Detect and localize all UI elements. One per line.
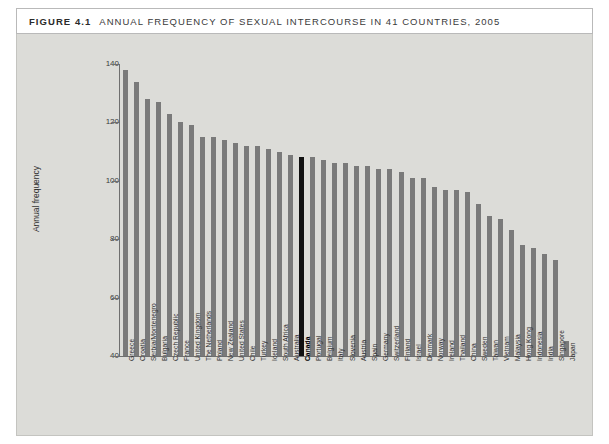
x-axis-label: Finland — [404, 339, 411, 361]
figure-number: FIGURE 4.1 — [29, 16, 91, 27]
x-axis-label: Greece — [128, 339, 135, 361]
x-axis-label: Switzerland — [393, 326, 400, 361]
bar — [288, 155, 293, 356]
bar — [421, 178, 426, 356]
y-axis-tick-mark — [112, 64, 119, 65]
x-axis-label: Australia — [293, 334, 300, 361]
x-axis-label: Ireland — [448, 340, 455, 361]
figure-header: FIGURE 4.1ANNUAL FREQUENCY OF SEXUAL INT… — [16, 8, 593, 34]
y-axis-tick: 80 — [57, 239, 119, 240]
x-axis-label: Bulgaria — [161, 336, 168, 361]
x-axis-label: South Africa — [282, 324, 289, 361]
x-axis-label: Singapore — [558, 330, 565, 361]
x-axis-label: Indonesia — [536, 332, 543, 362]
x-axis-label: Denmark — [426, 334, 433, 361]
bar — [454, 190, 459, 356]
x-axis-label: Sweden — [481, 337, 488, 361]
x-axis-label: Croatia — [139, 339, 146, 361]
x-axis-label: Norway — [437, 338, 444, 361]
bar — [365, 166, 370, 356]
bar — [321, 160, 326, 356]
bar — [465, 192, 470, 356]
x-axis-label: Canada — [304, 337, 311, 361]
x-axis-label: New Zealand — [227, 321, 234, 361]
x-axis-label: Vietnam — [503, 336, 510, 361]
figure-container: FIGURE 4.1ANNUAL FREQUENCY OF SEXUAL INT… — [16, 8, 593, 436]
x-axis-label: Malaysia — [514, 334, 521, 361]
x-axis-label: Japan — [569, 343, 576, 361]
x-axis-label: United States — [238, 320, 245, 361]
y-axis-tick: 100 — [57, 181, 119, 182]
bar — [123, 70, 128, 356]
bar — [487, 216, 492, 356]
figure-header-text: FIGURE 4.1ANNUAL FREQUENCY OF SEXUAL INT… — [29, 16, 500, 27]
x-axis-label: Taiwan — [492, 340, 499, 361]
y-axis-tick: 120 — [57, 122, 119, 123]
x-axis-label: United Kingdom — [194, 313, 201, 361]
bar — [354, 166, 359, 356]
x-axis-label: Germany — [382, 333, 389, 361]
bar — [255, 146, 260, 356]
x-axis-label: Slovenia — [349, 335, 356, 361]
bar — [332, 163, 337, 356]
y-axis-line — [119, 64, 120, 357]
x-axis-label: Hong Kong — [525, 327, 532, 361]
x-axis-label: The Netherlands — [205, 311, 212, 361]
y-axis-tick: 60 — [57, 298, 119, 299]
bar — [443, 190, 448, 356]
x-axis-label: France — [183, 340, 190, 361]
bar — [376, 169, 381, 356]
bar — [498, 219, 503, 356]
y-axis-tick-mark — [112, 356, 119, 357]
bar — [343, 163, 348, 356]
x-axis-label: Turkey — [260, 340, 267, 361]
plot-area: 406080100120140 Annual frequency GreeceC… — [17, 34, 594, 436]
x-axis-label: Spain — [371, 344, 378, 361]
x-axis-label: Austria — [360, 340, 367, 361]
x-axis-label: Chile — [249, 345, 256, 361]
bar — [299, 157, 304, 356]
y-axis-tick-mark — [112, 181, 119, 182]
x-axis-label: Czech Republic — [172, 313, 179, 361]
y-axis-tick: 40 — [57, 356, 119, 357]
x-axis-label: Portugal — [315, 336, 322, 361]
chart-panel: 406080100120140 Annual frequency GreeceC… — [16, 34, 593, 436]
bar — [266, 149, 271, 356]
bar — [387, 169, 392, 356]
x-axis-label: Iceland — [271, 339, 278, 361]
bar — [432, 187, 437, 356]
y-axis-tick-mark — [112, 122, 119, 123]
x-axis-label: Thailand — [459, 335, 466, 361]
bar — [476, 204, 481, 356]
figure-title: ANNUAL FREQUENCY OF SEXUAL INTERCOURSE I… — [99, 16, 500, 27]
x-axis-label: Serbia/Montenegro — [150, 303, 157, 361]
bar — [410, 178, 415, 356]
y-axis-tick-mark — [112, 298, 119, 299]
x-axis-label: Italy — [337, 348, 344, 361]
x-axis-label: India — [547, 346, 554, 361]
x-axis-label: Belgium — [326, 336, 333, 361]
x-axis-label: Poland — [216, 340, 223, 361]
y-axis-title: Annual frequency — [31, 139, 41, 259]
x-axis-label: Israel — [415, 344, 422, 361]
x-axis-label: China — [470, 343, 477, 361]
y-axis-tick: 140 — [57, 64, 119, 65]
bar — [310, 157, 315, 356]
bar — [134, 82, 139, 356]
y-axis-tick-mark — [112, 239, 119, 240]
